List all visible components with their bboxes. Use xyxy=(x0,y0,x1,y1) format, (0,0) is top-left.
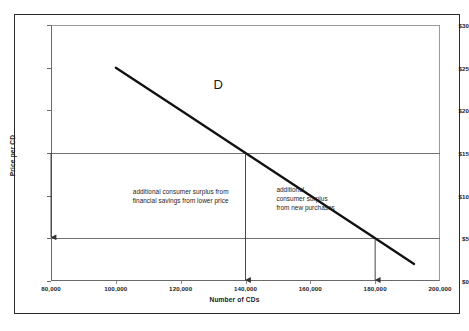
price-reference-line xyxy=(51,153,440,154)
x-axis-tick-mark xyxy=(181,281,182,284)
demand-curve-label: D xyxy=(214,77,223,92)
consumer-surplus-chart-figure: $0$5$10$15$20$25$30 80,000100,000120,000… xyxy=(0,0,469,331)
y-axis-tick-label: $25 xyxy=(435,64,469,71)
y-axis-title: Price per CD xyxy=(9,135,16,176)
y-axis-tick-mark xyxy=(47,25,51,26)
y-axis-tick-label: $5 xyxy=(435,235,469,242)
y-axis-tick-mark xyxy=(47,68,51,69)
x-axis-tick-label: 100,000 xyxy=(104,285,127,292)
surplus-note-left: additional consumer surplus from financi… xyxy=(121,187,241,205)
x-axis-tick-mark xyxy=(246,281,247,284)
x-axis-tick-label: 140,000 xyxy=(234,285,257,292)
surplus-note-right: additional consumer surplus from new pur… xyxy=(276,185,346,213)
y-axis-tick-mark xyxy=(47,281,51,282)
x-axis-tick-label: 200,000 xyxy=(428,285,451,292)
y-axis-tick-label: $0 xyxy=(435,278,469,285)
y-axis-tick-mark xyxy=(47,110,51,111)
y-axis-tick-mark xyxy=(47,196,51,197)
x-axis-tick-mark xyxy=(116,281,117,284)
x-axis-title: Number of CDs xyxy=(0,296,469,303)
x-axis-tick-label: 180,000 xyxy=(364,285,387,292)
y-axis-tick-label: $30 xyxy=(435,22,469,29)
x-axis-tick-label: 80,000 xyxy=(41,285,61,292)
y-axis-tick-label: $20 xyxy=(435,107,469,114)
x-axis-tick-mark xyxy=(310,281,311,284)
price-reference-line xyxy=(51,238,440,239)
x-axis-tick-label: 160,000 xyxy=(299,285,322,292)
y-axis-tick-label: $15 xyxy=(435,150,469,157)
x-axis-tick-label: 120,000 xyxy=(169,285,192,292)
y-axis-tick-label: $10 xyxy=(435,192,469,199)
x-axis-tick-mark xyxy=(375,281,376,284)
